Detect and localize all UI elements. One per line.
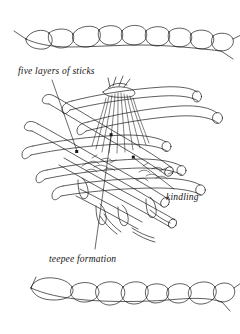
- illustration-page: five layers of sticks kindling teepee fo…: [0, 0, 240, 334]
- label-kindling: kindling: [166, 192, 199, 202]
- leader-kindling: [134, 158, 174, 189]
- label-five-layers-of-sticks: five layers of sticks: [18, 66, 95, 76]
- label-teepee-formation: teepee formation: [49, 254, 116, 264]
- fire-lay-logs: [22, 76, 223, 242]
- top-rope-border: [14, 25, 240, 59]
- bottom-rope-border: [31, 277, 240, 311]
- fire-lay-illustration: [0, 0, 240, 334]
